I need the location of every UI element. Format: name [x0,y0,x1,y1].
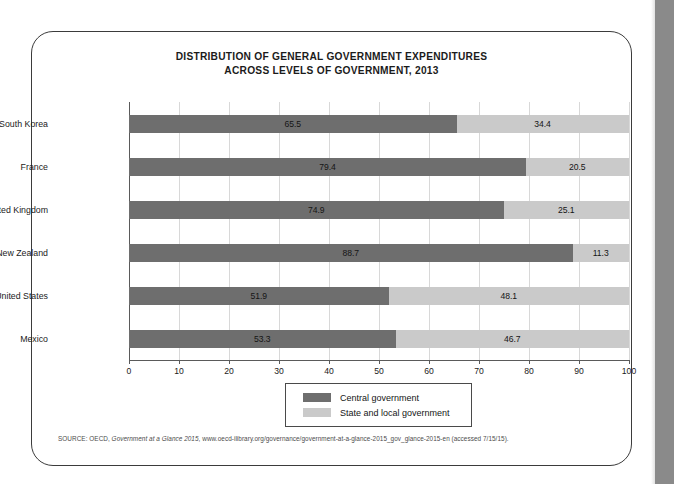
bar-row: 74.925.1 [129,201,629,219]
source-title-italic: Government at a Glance 2015 [112,435,199,442]
x-axis-tick-mark [529,360,530,364]
chart-title: DISTRIBUTION OF GENERAL GOVERNMENT EXPEN… [32,50,631,78]
category-label: France [21,158,48,176]
source-prefix: SOURCE: OECD, [58,435,112,442]
bar-value-label-state-local: 20.5 [569,158,586,176]
bar-value-label-central: 65.5 [284,115,301,133]
bar-value-label-state-local: 48.1 [500,287,517,305]
x-axis-tick-mark [429,360,430,364]
bar-row: 79.420.5 [129,158,629,176]
legend-item: State and local government [286,405,471,420]
bar-value-label-central: 88.7 [342,244,359,262]
bar-row: 88.711.3 [129,244,629,262]
bar-value-label-state-local: 34.4 [534,115,551,133]
legend-swatch-central [303,393,331,402]
bar-value-label-state-local: 11.3 [593,244,609,262]
bar-value-label-central: 79.4 [319,158,336,176]
category-label: Mexico [20,330,48,348]
x-axis-tick-mark [229,360,230,364]
source-note: SOURCE: OECD, Government at a Glance 201… [58,434,616,444]
x-axis-tick-label: 70 [474,366,484,376]
x-axis-tick-mark [329,360,330,364]
x-axis-tick-mark [379,360,380,364]
x-axis-tick-label: 80 [524,366,534,376]
x-axis-tick-mark [579,360,580,364]
bar-value-label-central: 74.9 [308,201,325,219]
x-axis-tick-label: 90 [574,366,584,376]
chart-legend: Central governmentState and local govern… [285,383,472,427]
legend-item: Central government [286,390,471,405]
x-axis-tick-label: 100 [622,366,636,376]
legend-label: State and local government [340,408,450,418]
x-axis-tick-mark [129,360,130,364]
category-label: New Zealand [0,244,48,262]
figure-card: DISTRIBUTION OF GENERAL GOVERNMENT EXPEN… [31,31,632,466]
x-axis-tick-label: 10 [174,366,184,376]
bar-value-label-central: 51.9 [250,287,267,305]
bar-value-label-central: 53.3 [254,330,271,348]
bar-value-label-state-local: 25.1 [558,201,575,219]
x-axis-tick-label: 30 [274,366,284,376]
category-label: South Korea [0,115,48,133]
x-axis-tick-label: 20 [224,366,234,376]
x-axis-tick-label: 60 [424,366,434,376]
category-label: United States [0,287,48,305]
plot-area: 65.534.479.420.574.925.188.711.351.948.1… [129,102,629,360]
chart-title-line-1: DISTRIBUTION OF GENERAL GOVERNMENT EXPEN… [32,50,631,64]
x-axis-tick-mark [279,360,280,364]
x-axis-tick-mark [629,360,630,364]
x-axis-tick-label: 0 [127,366,132,376]
x-axis-tick-label: 40 [324,366,334,376]
legend-swatch-state-local [303,408,331,417]
bar-value-label-state-local: 46.7 [504,330,521,348]
bar-row: 51.948.1 [129,287,629,305]
page-edge-strip [655,0,674,484]
x-axis-tick-mark [179,360,180,364]
bar-row: 65.534.4 [129,115,629,133]
x-axis-tick-mark [479,360,480,364]
category-label: United Kingdom [0,201,48,219]
chart-title-line-2: ACROSS LEVELS OF GOVERNMENT, 2013 [32,64,631,78]
x-axis-tick-label: 50 [374,366,384,376]
source-suffix: , www.oecd-ilibrary.org/governance/gover… [199,435,509,442]
bar-row: 53.346.7 [129,330,629,348]
gridline [629,102,630,360]
legend-label: Central government [340,393,419,403]
